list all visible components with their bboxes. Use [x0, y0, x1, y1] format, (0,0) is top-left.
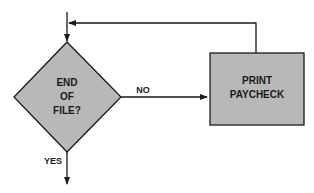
process-node: PRINT PAYCHECK: [210, 53, 304, 125]
process-label-line1: PRINT: [242, 75, 272, 86]
loop-back-connector: [69, 23, 256, 53]
yes-edge-label: YES: [44, 156, 62, 166]
decision-label-line1: END: [56, 77, 77, 88]
decision-node: END OF FILE?: [14, 42, 121, 152]
flowchart-diagram: END OF FILE? NO PRINT PAYCHECK YES: [0, 0, 314, 193]
no-edge-label: NO: [136, 85, 150, 95]
process-label-line2: PAYCHECK: [230, 89, 285, 100]
decision-label-line2: OF: [60, 91, 74, 102]
decision-label-line3: FILE?: [53, 105, 81, 116]
